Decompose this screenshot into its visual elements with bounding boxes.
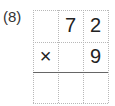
problem-label: (8): [3, 8, 21, 25]
grid-line: [33, 103, 108, 104]
answer-separator-line: [33, 72, 108, 73]
multiplication-grid: 7 2 × 9: [33, 10, 108, 103]
grid-cell: 7: [58, 14, 83, 37]
grid-line: [33, 42, 108, 43]
grid-cell: 9: [83, 45, 108, 68]
grid-cell: 2: [83, 14, 108, 37]
multiply-sign: ×: [33, 45, 58, 68]
grid-line: [108, 10, 109, 103]
grid-line: [33, 10, 108, 11]
